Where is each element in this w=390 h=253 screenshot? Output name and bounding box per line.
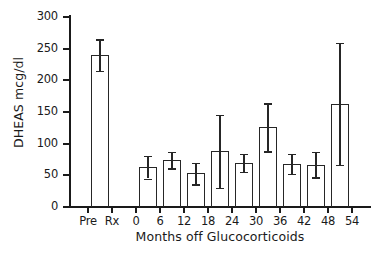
x-tick <box>207 207 209 213</box>
error-bar-cap-upper <box>168 152 175 153</box>
error-bar-cap-upper <box>192 163 199 164</box>
error-bar-cap-lower <box>264 151 271 152</box>
x-tick <box>351 207 353 213</box>
error-bar-stem <box>339 43 340 165</box>
error-bar-stem <box>99 39 100 71</box>
y-tick <box>63 174 70 176</box>
error-bar-cap-upper <box>336 43 343 44</box>
y-tick <box>63 48 70 50</box>
error-bar-cap-lower <box>144 179 151 180</box>
x-tick <box>255 207 257 213</box>
error-bar-stem <box>267 103 268 151</box>
error-bar-cap-lower <box>336 165 343 166</box>
x-tick <box>327 207 329 213</box>
y-tick-label: 150 <box>24 104 58 118</box>
error-bar-cap-upper <box>264 103 271 104</box>
error-bar-stem <box>243 154 244 172</box>
error-bar-cap-lower <box>96 71 103 72</box>
y-tick-label: 250 <box>24 41 58 55</box>
x-tick <box>183 207 185 213</box>
error-bar-stem <box>315 152 316 177</box>
error-bar-cap-upper <box>144 156 151 157</box>
y-tick <box>63 111 70 113</box>
x-axis-title: Months off Glucocorticoids <box>70 229 370 244</box>
error-bar-cap-lower <box>216 188 223 189</box>
x-tick <box>111 207 113 213</box>
error-bar-stem <box>147 156 148 179</box>
x-tick <box>159 207 161 213</box>
y-tick-label: 50 <box>24 167 58 181</box>
error-bar-stem <box>291 154 292 174</box>
y-tick <box>63 206 70 208</box>
error-bar-cap-upper <box>216 115 223 116</box>
y-tick-label: 100 <box>24 136 58 150</box>
error-bar-stem <box>171 152 172 168</box>
y-axis-title: DHEAS mcg/dl <box>11 23 26 183</box>
error-bar-cap-upper <box>96 39 103 40</box>
dheas-bar-chart-figure: 050100150200250300 PreRx0612182430364248… <box>0 0 390 253</box>
y-tick-label: 200 <box>24 72 58 86</box>
x-tick <box>231 207 233 213</box>
error-bar-cap-lower <box>168 168 175 169</box>
error-bar-cap-lower <box>312 177 319 178</box>
error-bar-cap-upper <box>288 154 295 155</box>
x-tick <box>279 207 281 213</box>
x-tick <box>87 207 89 213</box>
y-tick <box>63 16 70 18</box>
y-tick <box>63 143 70 145</box>
error-bar-stem <box>219 115 220 188</box>
x-tick <box>303 207 305 213</box>
error-bar-cap-upper <box>240 154 247 155</box>
error-bar-cap-lower <box>240 172 247 173</box>
x-tick-label: 54 <box>336 214 368 228</box>
y-tick-label: 300 <box>24 9 58 23</box>
error-bar-cap-lower <box>192 184 199 185</box>
y-tick <box>63 79 70 81</box>
error-bar-cap-lower <box>288 174 295 175</box>
error-bar-cap-upper <box>312 152 319 153</box>
x-tick <box>135 207 137 213</box>
bar <box>91 55 108 207</box>
error-bar-stem <box>195 163 196 185</box>
y-tick-label: 0 <box>24 199 58 213</box>
